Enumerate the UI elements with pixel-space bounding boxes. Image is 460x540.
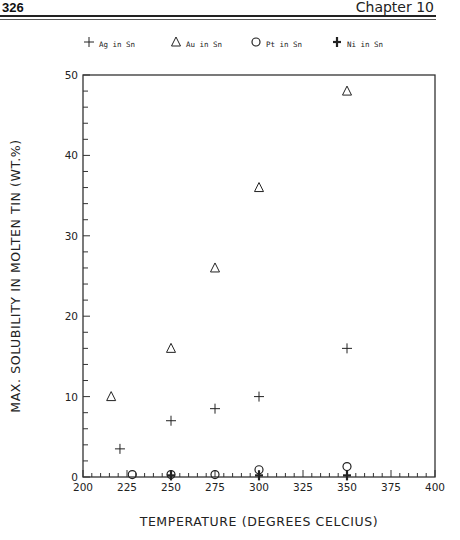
x-tick-label: 300 bbox=[249, 481, 269, 493]
x-tick-label: 350 bbox=[337, 481, 357, 493]
x-tick-label: 250 bbox=[161, 481, 181, 493]
data-point bbox=[343, 470, 351, 480]
data-point bbox=[167, 343, 176, 352]
circle-icon bbox=[252, 38, 260, 46]
y-tick-label: 20 bbox=[65, 310, 78, 322]
legend-item: Au in Sn bbox=[172, 37, 223, 49]
data-point bbox=[210, 404, 220, 414]
y-axis-title: MAX. SOLUBILITY IN MOLTEN TIN (WT.%) bbox=[8, 139, 23, 412]
data-point bbox=[166, 416, 176, 426]
scatter-chart: Ag in SnAu in SnPt in SnNi in Sn 2002252… bbox=[0, 0, 460, 540]
triangle-icon bbox=[172, 37, 181, 46]
data-point bbox=[254, 392, 264, 402]
series-ni-in-sn bbox=[167, 470, 351, 480]
y-tick-label: 0 bbox=[71, 471, 78, 483]
data-point bbox=[342, 343, 352, 353]
legend-item: Ni in Sn bbox=[333, 37, 383, 49]
x-axis-title: TEMPERATURE (DEGREES CELCIUS) bbox=[139, 514, 379, 529]
x-tick-label: 275 bbox=[205, 481, 225, 493]
chart-legend: Ag in SnAu in SnPt in SnNi in Sn bbox=[84, 37, 383, 49]
x-tick-label: 375 bbox=[381, 481, 401, 493]
plot-border bbox=[83, 75, 435, 477]
series-ag-in-sn bbox=[115, 343, 352, 454]
x-tick-label: 225 bbox=[117, 481, 137, 493]
x-tick-label: 400 bbox=[425, 481, 445, 493]
legend-label: Ag in Sn bbox=[99, 40, 135, 49]
data-points bbox=[107, 86, 352, 480]
y-tick-label: 10 bbox=[65, 391, 78, 403]
legend-item: Ag in Sn bbox=[84, 37, 135, 49]
data-point bbox=[211, 263, 220, 272]
series-pt-in-sn bbox=[128, 463, 351, 479]
x-tick-label: 325 bbox=[293, 481, 313, 493]
axis-ticks: 20022525027530032535037540001020304050 bbox=[65, 69, 445, 493]
legend-item: Pt in Sn bbox=[252, 38, 302, 49]
legend-label: Au in Sn bbox=[186, 40, 222, 49]
data-point bbox=[115, 444, 125, 454]
legend-label: Ni in Sn bbox=[347, 40, 383, 49]
plot-frame bbox=[83, 75, 435, 477]
y-tick-label: 40 bbox=[65, 149, 78, 161]
plus-icon bbox=[84, 37, 94, 47]
data-point bbox=[343, 86, 352, 95]
data-point bbox=[107, 392, 116, 401]
y-tick-label: 30 bbox=[65, 230, 78, 242]
legend-label: Pt in Sn bbox=[266, 40, 302, 49]
data-point bbox=[255, 183, 264, 192]
series-au-in-sn bbox=[107, 86, 352, 401]
y-tick-label: 50 bbox=[65, 69, 78, 81]
bold-plus-icon bbox=[333, 37, 341, 47]
data-point bbox=[343, 463, 351, 471]
